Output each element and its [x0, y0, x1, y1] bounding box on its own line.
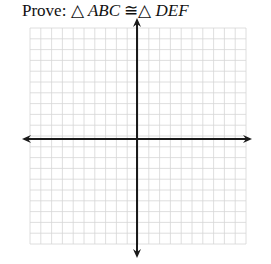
coordinate-plane: [0, 0, 271, 264]
